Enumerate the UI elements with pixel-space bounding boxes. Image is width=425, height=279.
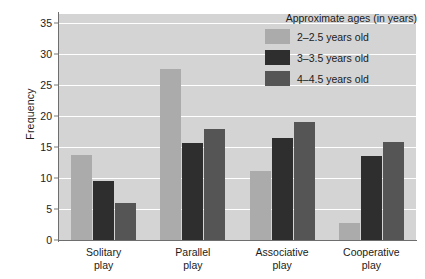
bar — [383, 142, 404, 240]
y-tick-label: 0 — [46, 234, 52, 246]
y-tick-label: 25 — [40, 79, 52, 91]
legend-swatch-series-2 — [265, 50, 290, 65]
x-tick-label: Associativeplay — [256, 246, 309, 271]
bar — [93, 181, 114, 240]
legend-label-series-3: 4–4.5 years old — [297, 73, 369, 85]
y-axis-ticks: 05101520253035 — [26, 14, 52, 240]
legend-label-series-1: 2–2.5 years old — [297, 31, 369, 43]
y-tick-label: 30 — [40, 48, 52, 60]
bar — [339, 223, 360, 240]
y-tick-label: 5 — [46, 203, 52, 215]
y-tick-label: 10 — [40, 172, 52, 184]
legend-swatch-series-1 — [265, 29, 290, 44]
bar — [182, 143, 203, 240]
legend: Approximate ages (in years) 2–2.5 years … — [243, 12, 419, 92]
bar — [250, 171, 271, 240]
y-tick-label: 20 — [40, 110, 52, 122]
bar — [115, 203, 136, 240]
bar — [204, 129, 225, 240]
legend-swatch-series-3 — [265, 71, 290, 86]
legend-label-series-2: 3–3.5 years old — [297, 52, 369, 64]
bar — [71, 155, 92, 240]
x-axis-line — [58, 240, 417, 241]
x-tick-label: Solitaryplay — [86, 246, 121, 271]
gridline — [59, 116, 416, 117]
legend-item[interactable]: 3–3.5 years old — [243, 50, 419, 65]
bar — [294, 122, 315, 240]
x-tick-label: Cooperativeplay — [343, 246, 400, 271]
x-axis-labels: SolitaryplayParallelplayAssociativeplayC… — [59, 243, 416, 277]
gridline — [59, 147, 416, 148]
bar — [272, 138, 293, 240]
legend-item[interactable]: 4–4.5 years old — [243, 71, 419, 86]
legend-title: Approximate ages (in years) — [243, 12, 419, 24]
bar-chart: Frequency 05101520253035 SolitaryplayPar… — [0, 0, 425, 279]
y-tick-label: 15 — [40, 141, 52, 153]
bar — [361, 156, 382, 240]
legend-item[interactable]: 2–2.5 years old — [243, 29, 419, 44]
x-tick-label: Parallelplay — [175, 246, 210, 271]
bar — [160, 69, 181, 241]
y-tick-label: 35 — [40, 17, 52, 29]
